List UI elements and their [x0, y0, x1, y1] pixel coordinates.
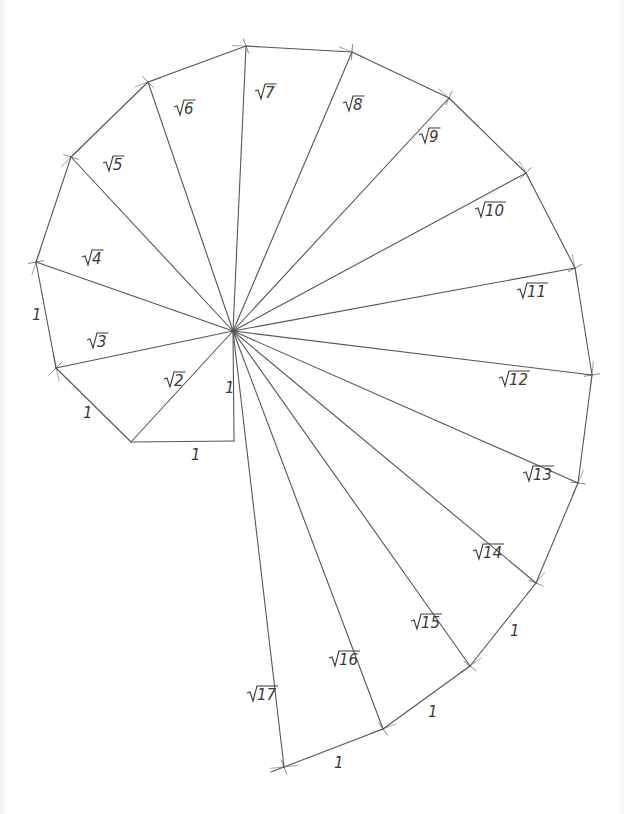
label-sqrt-14: 14 [473, 544, 504, 562]
spoke-4 [36, 262, 233, 331]
hypotenuse-spokes [36, 46, 592, 767]
label-sqrt-16: 16 [329, 651, 360, 669]
svg-text:3: 3 [97, 333, 107, 351]
label-sqrt-4: 4 [82, 250, 104, 268]
label-sqrt-8: 8 [343, 96, 365, 114]
unit-edge-11-12 [575, 268, 592, 375]
unit-edge-7-8 [246, 46, 352, 52]
svg-text:6: 6 [184, 100, 194, 118]
spoke-11 [233, 268, 575, 331]
unit-edge-13-14 [536, 483, 578, 583]
svg-text:9: 9 [429, 128, 439, 146]
spiral-of-theodorus: 234567891011121314151617 1111111 [0, 0, 624, 814]
spoke-13 [233, 331, 578, 483]
unit-edge-12-13 [578, 375, 592, 483]
svg-text:4: 4 [92, 250, 102, 268]
unit-edge-10-11 [526, 173, 575, 268]
unit-edge-15-16 [383, 666, 470, 729]
svg-text:10: 10 [485, 202, 504, 220]
unit-edge-4-5 [36, 157, 71, 262]
svg-text:12: 12 [509, 371, 528, 389]
label-sqrt-6: 6 [174, 100, 196, 118]
spoke-9 [233, 98, 449, 331]
spoke-7 [233, 46, 246, 331]
svg-text:5: 5 [113, 156, 123, 174]
unit-length-label: 1 [191, 446, 201, 464]
label-sqrt-10: 10 [475, 202, 506, 220]
label-sqrt-2: 2 [164, 372, 186, 390]
svg-text:14: 14 [483, 544, 502, 562]
label-sqrt-11: 11 [517, 283, 548, 301]
spoke-8 [233, 52, 352, 331]
unit-length-label: 1 [510, 622, 520, 640]
unit-outer-edges [36, 46, 592, 772]
svg-text:8: 8 [353, 96, 363, 114]
spoke-3 [56, 331, 233, 368]
unit-edge-5-6 [71, 82, 148, 157]
unit-length-label: 1 [428, 703, 438, 721]
unit-length-label: 1 [225, 379, 235, 397]
unit-edge-14-15 [470, 583, 536, 666]
label-sqrt-12: 12 [499, 371, 530, 389]
unit-edge-8-9 [352, 52, 449, 98]
hypotenuse-labels: 234567891011121314151617 [82, 84, 554, 704]
svg-text:15: 15 [421, 614, 440, 632]
label-sqrt-13: 13 [523, 466, 554, 484]
label-sqrt-3: 3 [87, 333, 109, 351]
unit-length-label: 1 [334, 754, 344, 772]
base-unit-edge [131, 441, 234, 442]
label-sqrt-7: 7 [255, 84, 277, 102]
spoke-6 [148, 82, 233, 331]
svg-text:7: 7 [265, 84, 275, 102]
svg-text:11: 11 [527, 283, 546, 301]
unit-edge-2-3 [56, 368, 131, 442]
svg-text:2: 2 [174, 372, 184, 390]
svg-text:13: 13 [533, 466, 552, 484]
label-sqrt-5: 5 [103, 156, 125, 174]
spoke-12 [233, 331, 592, 375]
svg-text:16: 16 [339, 651, 358, 669]
spoke-10 [233, 173, 526, 331]
compass-arc-marks [28, 39, 600, 775]
spoke-16 [233, 331, 383, 729]
unit-length-label: 1 [32, 306, 42, 324]
svg-text:17: 17 [257, 686, 277, 704]
label-sqrt-15: 15 [411, 614, 442, 632]
unit-edge-9-10 [449, 98, 526, 173]
label-sqrt-9: 9 [419, 128, 441, 146]
label-sqrt-17: 17 [247, 686, 278, 704]
unit-edge-6-7 [148, 46, 246, 82]
spoke-5 [71, 157, 233, 331]
diagram-page: 234567891011121314151617 1111111 [0, 0, 624, 814]
unit-length-label: 1 [83, 404, 93, 422]
